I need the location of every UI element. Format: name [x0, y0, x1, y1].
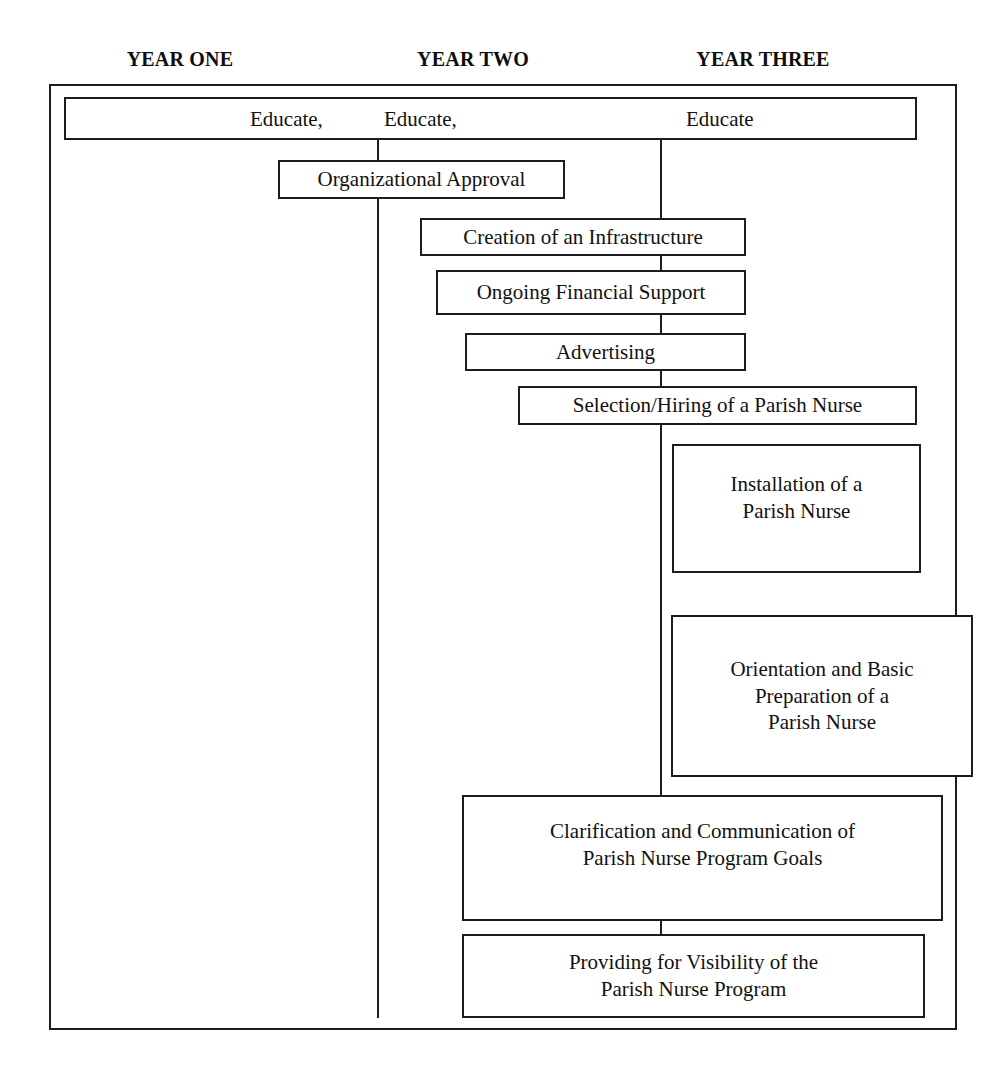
step-label-selection-hiring: Selection/Hiring of a Parish Nurse — [563, 392, 872, 419]
step-box-advertising: Advertising — [465, 333, 746, 371]
step-box-educate-banner: Educate, Educate, Educate — [64, 97, 917, 140]
connector-approval-to-infrastructure — [660, 198, 662, 220]
step-box-ongoing-financial-support: Ongoing Financial Support — [436, 270, 746, 315]
connector-infrastructure-to-financial-support — [660, 256, 662, 271]
banner-word-educate-3: Educate — [686, 106, 754, 131]
diagram-canvas: YEAR ONE YEAR TWO YEAR THREE Educate, Ed… — [0, 0, 1008, 1080]
step-label-providing-visibility: Providing for Visibility of the Parish N… — [559, 949, 828, 1003]
column-heading-year-two: YEAR TWO — [393, 48, 553, 71]
step-box-providing-visibility: Providing for Visibility of the Parish N… — [462, 934, 925, 1018]
step-label-orientation-preparation: Orientation and Basic Preparation of a P… — [720, 656, 923, 737]
connector-clarification-to-visibility — [660, 921, 662, 935]
column-heading-year-one: YEAR ONE — [100, 48, 260, 71]
step-box-orientation-preparation: Orientation and Basic Preparation of a P… — [671, 615, 973, 777]
banner-word-educate-1: Educate, — [250, 106, 323, 131]
step-box-selection-hiring: Selection/Hiring of a Parish Nurse — [518, 386, 917, 425]
banner-word-educate-2: Educate, — [384, 106, 457, 131]
connector-financial-support-to-advertising — [660, 315, 662, 334]
step-box-creation-of-infrastructure: Creation of an Infrastructure — [420, 218, 746, 256]
step-label-ongoing-financial-support: Ongoing Financial Support — [467, 279, 716, 306]
step-label-organizational-approval: Organizational Approval — [308, 166, 536, 193]
step-label-installation: Installation of a Parish Nurse — [721, 471, 873, 525]
step-box-clarification-communication: Clarification and Communication of Paris… — [462, 795, 943, 921]
step-box-installation: Installation of a Parish Nurse — [672, 444, 921, 573]
step-box-organizational-approval: Organizational Approval — [278, 160, 565, 199]
column-heading-year-three: YEAR THREE — [678, 48, 848, 71]
connector-advertising-to-selection-hiring — [660, 371, 662, 387]
step-label-clarification-communication: Clarification and Communication of Paris… — [540, 818, 865, 872]
step-label-creation-of-infrastructure: Creation of an Infrastructure — [453, 224, 713, 251]
step-label-advertising: Advertising — [546, 339, 665, 366]
column-divider-year-one-two — [377, 140, 379, 1018]
